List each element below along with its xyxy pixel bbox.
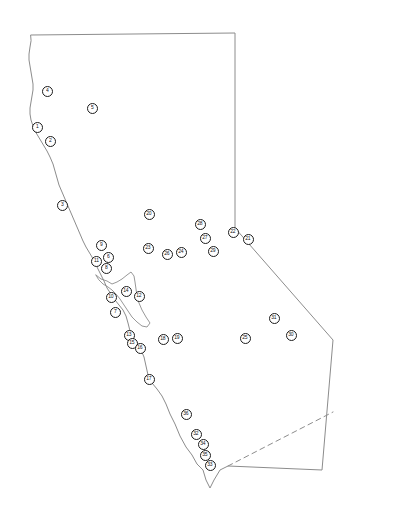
map-marker-label: 18 [160,337,165,342]
marker-layer: 1234567891011121314151617181920212223242… [0,0,406,516]
map-marker-label: 32 [193,432,198,437]
map-marker-5[interactable]: 5 [87,103,98,114]
map-marker-label: 35 [202,453,207,458]
map-marker-label: 19 [174,336,179,341]
map-marker-20[interactable]: 20 [144,209,155,220]
map-marker-label: 25 [242,336,247,341]
map-marker-1[interactable]: 1 [32,122,43,133]
map-marker-label: 4 [46,89,49,94]
map-marker-9[interactable]: 9 [96,240,107,251]
map-marker-label: 8 [105,266,108,271]
map-marker-4[interactable]: 4 [42,86,53,97]
map-marker-label: 31 [271,316,276,321]
map-marker-label: 15 [129,341,134,346]
map-marker-label: 16 [137,346,142,351]
map-marker-17[interactable]: 17 [144,374,155,385]
map-marker-35[interactable]: 35 [200,450,211,461]
map-marker-11[interactable]: 11 [91,256,102,267]
map-marker-label: 17 [146,377,151,382]
map-marker-32[interactable]: 32 [191,429,202,440]
map-marker-18[interactable]: 18 [158,334,169,345]
california-map-figure: 1234567891011121314151617181920212223242… [0,0,406,516]
map-marker-29[interactable]: 29 [208,246,219,257]
map-marker-label: 24 [178,250,183,255]
map-marker-label: 11 [94,259,99,264]
map-marker-8[interactable]: 8 [101,263,112,274]
map-marker-label: 6 [107,255,110,260]
map-marker-label: 33 [207,463,212,468]
map-marker-label: 14 [123,289,128,294]
map-marker-label: 13 [126,333,131,338]
map-marker-2[interactable]: 2 [45,136,56,147]
map-marker-label: 12 [136,294,141,299]
map-marker-label: 3 [61,203,64,208]
map-marker-label: 27 [202,236,207,241]
map-marker-label: 29 [210,249,215,254]
map-marker-6[interactable]: 6 [103,252,114,263]
map-marker-label: 23 [145,246,150,251]
map-marker-label: 34 [200,442,205,447]
map-marker-22[interactable]: 22 [228,227,239,238]
map-marker-label: 20 [146,212,151,217]
map-marker-label: 22 [230,230,235,235]
map-marker-12[interactable]: 12 [134,291,145,302]
map-marker-26[interactable]: 26 [162,249,173,260]
map-marker-label: 21 [245,237,250,242]
map-marker-28[interactable]: 28 [195,219,206,230]
map-marker-label: 9 [100,243,103,248]
map-marker-19[interactable]: 19 [172,333,183,344]
map-marker-24[interactable]: 24 [176,247,187,258]
map-marker-25[interactable]: 25 [240,333,251,344]
map-marker-label: 30 [288,333,293,338]
map-marker-label: 2 [49,139,52,144]
map-marker-3[interactable]: 3 [57,200,68,211]
map-marker-36[interactable]: 36 [181,409,192,420]
map-marker-31[interactable]: 31 [269,313,280,324]
map-marker-label: 7 [114,310,117,315]
map-marker-10[interactable]: 10 [106,292,117,303]
map-marker-label: 5 [91,106,94,111]
map-marker-21[interactable]: 21 [243,234,254,245]
map-marker-7[interactable]: 7 [110,307,121,318]
map-marker-label: 26 [164,252,169,257]
map-marker-16[interactable]: 16 [135,343,146,354]
map-marker-33[interactable]: 33 [205,460,216,471]
map-marker-label: 36 [183,412,188,417]
map-marker-label: 28 [197,222,202,227]
map-marker-27[interactable]: 27 [200,233,211,244]
map-marker-label: 10 [108,295,113,300]
map-marker-23[interactable]: 23 [143,243,154,254]
map-marker-30[interactable]: 30 [286,330,297,341]
map-marker-14[interactable]: 14 [121,286,132,297]
map-marker-label: 1 [36,125,39,130]
map-marker-34[interactable]: 34 [198,439,209,450]
